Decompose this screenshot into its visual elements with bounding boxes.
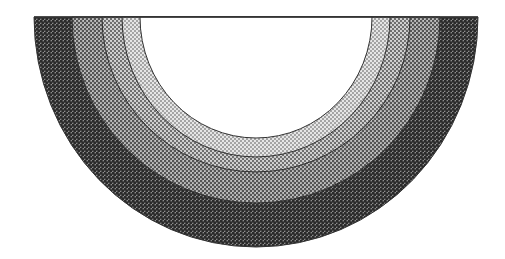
diagram-canvas <box>0 0 505 259</box>
semicircle-band-diagram <box>0 0 505 259</box>
